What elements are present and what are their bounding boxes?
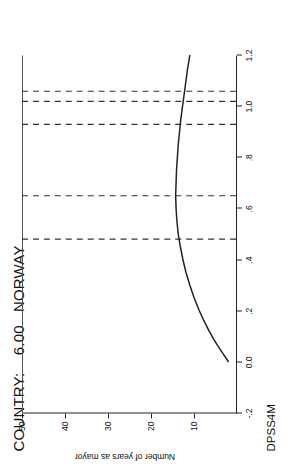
x-tick-mark xyxy=(237,361,242,362)
y-tick-label: 10 xyxy=(189,421,199,443)
y-tick-label: 50 xyxy=(17,421,27,443)
y-tick-mark xyxy=(65,413,66,418)
rotated-figure: COUNTRY: 6.00 NORWAY DPSS4M Number of ye… xyxy=(0,0,294,475)
plot-canvas xyxy=(22,55,236,412)
x-tick-mark xyxy=(237,156,242,157)
x-tick-mark xyxy=(237,105,242,106)
y-tick-mark xyxy=(151,413,152,418)
y-tick-mark xyxy=(22,413,23,418)
x-tick-mark xyxy=(237,412,242,413)
y-axis-label: Number of years as mayor xyxy=(35,451,215,461)
x-tick-mark xyxy=(237,54,242,55)
y-tick-label: 30 xyxy=(103,421,113,443)
y-tick-mark xyxy=(108,413,109,418)
y-tick-label: 20 xyxy=(146,421,156,443)
x-tick-mark xyxy=(237,207,242,208)
x-tick-label: .2 xyxy=(244,307,254,314)
x-tick-label: .4 xyxy=(244,256,254,263)
x-tick-mark xyxy=(237,259,242,260)
x-tick-label: .6 xyxy=(244,205,254,212)
x-tick-mark xyxy=(237,310,242,311)
plot-area xyxy=(22,55,237,413)
x-tick-label: 1.0 xyxy=(244,100,254,112)
x-tick-label: 1.2 xyxy=(244,49,254,61)
x-tick-label: .8 xyxy=(244,154,254,161)
y-tick-label: 40 xyxy=(60,421,70,443)
reference-lines-group xyxy=(22,91,236,239)
x-tick-label: -.2 xyxy=(244,408,254,418)
y-tick-mark xyxy=(194,413,195,418)
x-axis-label: DPSS4M xyxy=(265,404,277,451)
x-tick-label: 0.0 xyxy=(244,356,254,368)
